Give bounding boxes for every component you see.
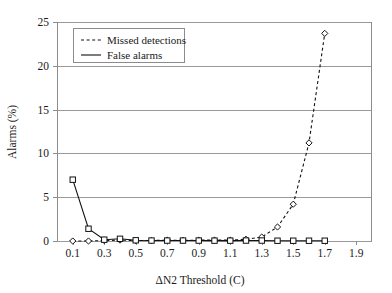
- x-tick-label-1.5: 1.5: [286, 247, 301, 259]
- alarms-vs-threshold-chart: 0.10.30.50.70.91.11.31.51.71.9 051015202…: [0, 0, 392, 293]
- y-axis-title: Alarms (%): [6, 105, 19, 159]
- data-point-1-3: [117, 236, 122, 241]
- x-axis-title: ΔN2 Threshold (C): [156, 274, 245, 287]
- data-point-1-5: [149, 238, 154, 243]
- x-tick-label-0.9: 0.9: [192, 247, 207, 259]
- y-tick-label-15: 15: [38, 104, 50, 116]
- x-tick-label-0.5: 0.5: [129, 247, 144, 259]
- data-point-1-1: [86, 226, 91, 231]
- x-tick-label-0.1: 0.1: [66, 247, 81, 259]
- x-axis-tick-labels: 0.10.30.50.70.91.11.31.51.71.9: [66, 247, 364, 259]
- data-point-1-9: [212, 238, 217, 243]
- chart-figure: 0.10.30.50.70.91.11.31.51.71.9 051015202…: [0, 0, 392, 293]
- y-tick-label-25: 25: [38, 16, 50, 28]
- legend-label-missed-detections: Missed detections: [107, 34, 186, 46]
- data-point-1-14: [291, 238, 296, 243]
- y-tick-label-5: 5: [43, 191, 49, 203]
- y-axis-title-text: Alarms (%): [6, 105, 19, 159]
- data-point-1-11: [243, 238, 248, 243]
- data-point-1-2: [102, 237, 107, 242]
- y-tick-label-20: 20: [38, 60, 50, 72]
- data-point-1-8: [196, 238, 201, 243]
- y-tick-label-0: 0: [43, 235, 49, 247]
- data-point-1-0: [70, 177, 75, 182]
- x-tick-label-1.9: 1.9: [349, 247, 364, 259]
- data-point-1-12: [259, 238, 264, 243]
- data-point-1-13: [275, 238, 280, 243]
- legend-label-false-alarms: False alarms: [107, 49, 162, 61]
- data-point-1-15: [306, 238, 311, 243]
- data-point-1-6: [165, 238, 170, 243]
- chart-legend: Missed detectionsFalse alarms: [74, 29, 187, 63]
- x-tick-label-1.3: 1.3: [255, 247, 270, 259]
- y-axis-tick-labels: 0510152025: [38, 16, 50, 247]
- data-point-1-7: [180, 238, 185, 243]
- x-tick-label-0.7: 0.7: [160, 247, 175, 259]
- data-point-1-16: [322, 238, 327, 243]
- data-point-1-4: [133, 238, 138, 243]
- x-tick-label-1.1: 1.1: [223, 247, 238, 259]
- x-tick-label-1.7: 1.7: [318, 247, 333, 259]
- x-axis-title-text: ΔN2 Threshold (C): [156, 274, 245, 287]
- x-tick-label-0.3: 0.3: [97, 247, 112, 259]
- data-point-1-10: [228, 238, 233, 243]
- y-tick-label-10: 10: [38, 147, 50, 159]
